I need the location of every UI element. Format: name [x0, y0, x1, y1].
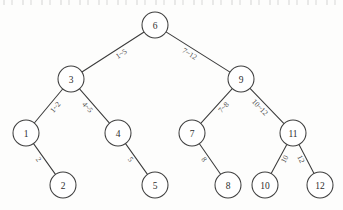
- tree-node-4[interactable]: 4: [105, 120, 131, 146]
- tree-node-3[interactable]: 3: [58, 66, 84, 92]
- binary-search-tree-diagram: 1~57~121~24~57~810~122581012 63914711258…: [0, 0, 343, 210]
- tree-node-1[interactable]: 1: [13, 120, 39, 146]
- tree-edge: [166, 32, 230, 72]
- tree-node-9[interactable]: 9: [228, 66, 254, 92]
- node-value-label: 2: [61, 181, 66, 191]
- figure-canvas: 1~57~121~24~57~810~122581012 63914711258…: [0, 0, 343, 210]
- edge-range-label: 4~5: [80, 100, 95, 115]
- node-value-label: 9: [239, 75, 244, 85]
- node-value-label: 10: [260, 181, 270, 191]
- edge-range-label: 10: [279, 153, 291, 164]
- edge-range-label: 7~8: [216, 100, 231, 115]
- edge-range-label: 12: [295, 154, 307, 165]
- tree-node-7[interactable]: 7: [179, 120, 205, 146]
- edge-range-label: 10~12: [250, 97, 270, 117]
- tree-node-10[interactable]: 10: [252, 172, 278, 198]
- node-value-label: 8: [226, 181, 231, 191]
- tree-node-12[interactable]: 12: [307, 172, 333, 198]
- edge-range-label: 2: [34, 155, 44, 163]
- tree-node-11[interactable]: 11: [280, 120, 306, 146]
- edge-range-label: 7~12: [181, 46, 199, 62]
- node-value-label: 6: [153, 21, 158, 31]
- node-value-label: 1: [24, 129, 29, 139]
- tree-node-2[interactable]: 2: [50, 172, 76, 198]
- node-value-label: 12: [315, 181, 325, 191]
- tree-node-5[interactable]: 5: [142, 172, 168, 198]
- edge-range-label: 1~5: [114, 47, 129, 61]
- node-value-label: 3: [69, 75, 74, 85]
- tree-node-6[interactable]: 6: [142, 12, 168, 38]
- tree-edge: [82, 32, 144, 72]
- node-value-label: 4: [116, 129, 121, 139]
- node-value-label: 5: [153, 181, 158, 191]
- node-value-label: 11: [288, 129, 297, 139]
- node-value-label: 7: [190, 129, 195, 139]
- edge-range-label: 1~2: [48, 100, 63, 115]
- edge-range-label: 5: [126, 155, 136, 163]
- edges-layer: [34, 32, 314, 174]
- tree-node-8[interactable]: 8: [215, 172, 241, 198]
- edge-range-label: 8: [199, 155, 209, 163]
